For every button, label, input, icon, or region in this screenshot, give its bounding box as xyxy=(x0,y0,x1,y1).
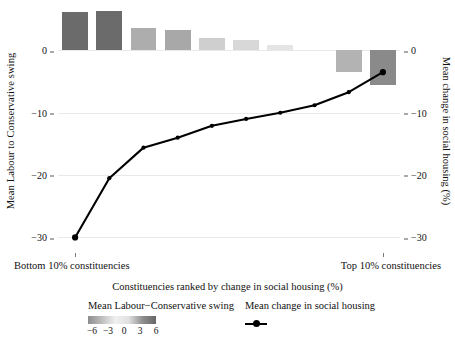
y-axis-right-tick-2: −20 xyxy=(401,170,427,181)
colorbar-tick-1: −3 xyxy=(103,326,113,336)
data-point-8 xyxy=(312,103,316,107)
bar-5 xyxy=(199,38,225,50)
y-axis-left-tick-1: −10 xyxy=(31,107,57,118)
x-tick-left xyxy=(75,253,76,257)
chart-figure: Mean Labour to Conservative swing Mean c… xyxy=(0,0,455,360)
bar-2 xyxy=(96,11,122,50)
y-axis-right-tick-3: −30 xyxy=(401,232,427,243)
y-left-tick-text-3: −30 xyxy=(31,232,47,243)
y-axis-left-tick-0: 0 xyxy=(42,45,57,56)
line-path xyxy=(75,72,383,237)
data-point-5 xyxy=(210,124,214,128)
y-right-tick-text-1: −10 xyxy=(411,107,427,118)
bar-4 xyxy=(165,30,191,50)
legend-colorbar xyxy=(88,316,156,324)
y-axis-right-title: Mean change in social housing (%) xyxy=(438,8,454,253)
y-left-tick-text-0: 0 xyxy=(42,45,47,56)
data-point-2 xyxy=(107,176,111,180)
data-point-3 xyxy=(141,146,145,150)
x-axis-label-bottom-decile: Bottom 10% constituencies xyxy=(14,260,130,271)
legend-point-dot xyxy=(253,320,260,327)
y-left-tick-text-2: −20 xyxy=(31,170,47,181)
bar-1 xyxy=(62,12,88,51)
legend-housing-label: Mean change in social housing xyxy=(245,300,375,311)
bar-9 xyxy=(336,50,362,72)
y-axis-left-tick-2: −20 xyxy=(31,170,57,181)
legend-item-swing: Mean Labour−Conservative swing −6−3036 xyxy=(88,300,234,338)
y-right-tick-text-3: −30 xyxy=(411,232,427,243)
y-axis-left-tick-3: −30 xyxy=(31,232,57,243)
y-axis-right-tick-1: −10 xyxy=(401,107,427,118)
colorbar-tick-4: 6 xyxy=(154,326,159,336)
legend-colorbar-ticks: −6−3036 xyxy=(88,326,166,338)
colorbar-tick-2: 0 xyxy=(122,326,127,336)
bar-10 xyxy=(370,50,396,85)
x-tick-right xyxy=(383,253,384,257)
data-point-9 xyxy=(347,90,351,94)
y-axis-left-title: Mean Labour to Conservative swing xyxy=(2,8,18,253)
y-left-tick-text-1: −10 xyxy=(31,107,47,118)
legend-swing-label: Mean Labour−Conservative swing xyxy=(88,300,234,311)
data-point-6 xyxy=(244,117,248,121)
chart-legend: Mean Labour−Conservative swing −6−3036 M… xyxy=(0,300,455,360)
y-axis-right-tick-0: 0 xyxy=(401,45,416,56)
y-right-tick-text-0: 0 xyxy=(411,45,416,56)
y-right-tick-text-2: −20 xyxy=(411,170,427,181)
x-axis-title: Constituencies ranked by change in socia… xyxy=(0,281,455,292)
data-point-4 xyxy=(176,136,180,140)
colorbar-tick-3: 3 xyxy=(138,326,143,336)
gridline-3 xyxy=(58,237,400,238)
plot-area xyxy=(58,8,400,253)
colorbar-tick-0: −6 xyxy=(87,326,97,336)
gridline-1 xyxy=(58,113,400,114)
gridline-2 xyxy=(58,175,400,176)
bar-6 xyxy=(233,40,259,50)
legend-line-point-marker-icon xyxy=(245,319,267,328)
legend-item-housing: Mean change in social housing xyxy=(245,300,375,328)
bar-3 xyxy=(131,28,157,50)
x-axis-label-top-decile: Top 10% constituencies xyxy=(341,260,441,271)
bar-7 xyxy=(267,45,293,51)
